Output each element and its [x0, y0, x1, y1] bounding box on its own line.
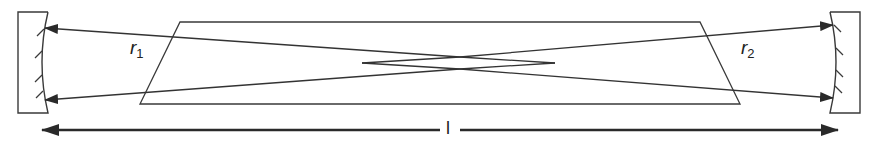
label-r2: r2	[741, 37, 755, 61]
crystal	[140, 22, 740, 104]
right-mirror	[830, 12, 860, 113]
label-r1: r1	[130, 37, 144, 61]
left-mirror	[18, 12, 48, 113]
resonator-diagram	[0, 0, 875, 150]
beam-paths	[45, 25, 833, 100]
label-length: l	[440, 118, 456, 139]
